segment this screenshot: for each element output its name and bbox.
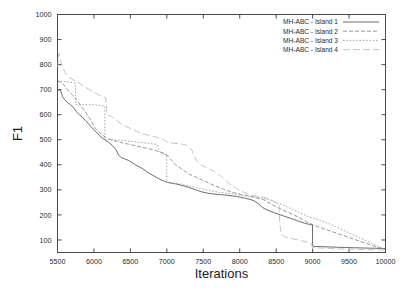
y-tick-label: 200 bbox=[40, 211, 52, 220]
chart-figure: 5500600065007000750080008500900095001000… bbox=[0, 0, 414, 292]
legend-label-2: MH-ABC - Island 2 bbox=[283, 28, 338, 35]
x-tick-label: 8000 bbox=[232, 257, 248, 266]
x-tick-label: 8500 bbox=[268, 257, 284, 266]
y-tick-label: 700 bbox=[40, 85, 52, 94]
series-line-4 bbox=[58, 53, 386, 250]
x-tick-label: 6500 bbox=[122, 257, 138, 266]
x-tick-label: 9000 bbox=[305, 257, 321, 266]
y-tick-label: 900 bbox=[40, 35, 52, 44]
x-tick-label: 10000 bbox=[376, 257, 396, 266]
chart-legend: MH-ABC - Island 1MH-ABC - Island 2MH-ABC… bbox=[283, 18, 379, 53]
legend-label-3: MH-ABC - Island 3 bbox=[283, 37, 338, 44]
y-tick-label: 800 bbox=[40, 60, 52, 69]
line-chart: 5500600065007000750080008500900095001000… bbox=[0, 0, 414, 292]
x-tick-label: 6000 bbox=[86, 257, 102, 266]
y-tick-label: 1000 bbox=[36, 10, 52, 19]
x-tick-label: 9500 bbox=[341, 257, 357, 266]
y-tick-label: 100 bbox=[40, 236, 52, 245]
series-lines bbox=[58, 53, 386, 250]
y-tick-label: 600 bbox=[40, 110, 52, 119]
x-tick-label: 7500 bbox=[195, 257, 211, 266]
legend-label-4: MH-ABC - Island 4 bbox=[283, 46, 338, 53]
x-tick-label: 7000 bbox=[159, 257, 175, 266]
x-tick-label: 5500 bbox=[50, 257, 66, 266]
x-axis-ticks: 5500600065007000750080008500900095001000… bbox=[50, 15, 396, 266]
series-line-1 bbox=[58, 90, 386, 249]
y-tick-label: 300 bbox=[40, 185, 52, 194]
y-axis-title: F1 bbox=[10, 126, 25, 141]
legend-label-1: MH-ABC - Island 1 bbox=[283, 18, 338, 25]
x-axis-title: Iterations bbox=[195, 266, 249, 281]
y-tick-label: 500 bbox=[40, 135, 52, 144]
y-tick-label: 400 bbox=[40, 160, 52, 169]
